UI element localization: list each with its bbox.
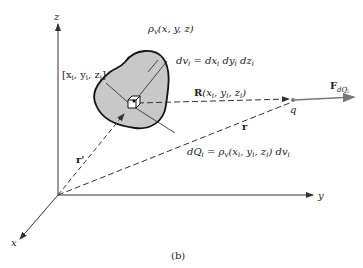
R-vector-label: R(xi, yi, zi) (194, 87, 246, 100)
coordinate-axes: z y x (11, 11, 324, 248)
charge-distribution-diagram: z y x ρv(x, y, z) [xi, yi, zi] dvi = dxi… (0, 0, 363, 268)
force-label: FdQi (330, 80, 349, 94)
volume-element-cube (128, 96, 140, 108)
figure-caption: (b) (171, 250, 185, 261)
z-axis-label: z (53, 11, 60, 22)
charge-region-blob (94, 51, 168, 128)
q-label: q (290, 104, 296, 115)
r-vector-label: r (242, 121, 248, 132)
x-axis (20, 195, 58, 239)
y-axis-label: y (317, 190, 324, 201)
point-coordinate-label: [xi, yi, zi] (62, 69, 106, 82)
density-label: ρv(x, y, z) (147, 23, 194, 36)
force-vector (294, 97, 354, 100)
vector-r-prime (58, 114, 124, 195)
volume-element-label: dvi = dxi dyi dzi (176, 55, 254, 68)
charge-element-label: dQi = ρv(xi, yi, zi) dvi (187, 146, 290, 159)
x-axis-label: x (11, 237, 17, 248)
r-prime-vector-label: r' (76, 154, 84, 165)
